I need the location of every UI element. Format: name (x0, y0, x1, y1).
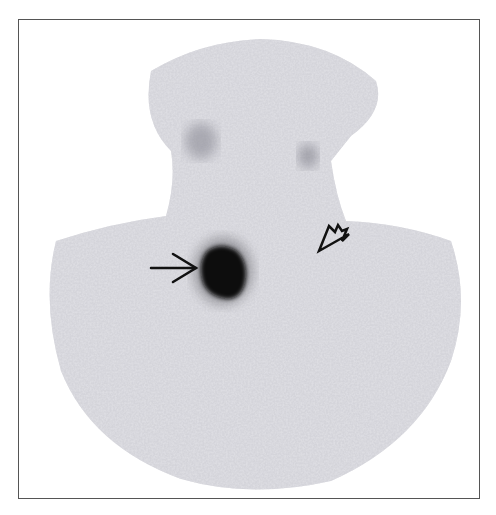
hot-spot (193, 237, 253, 305)
upper-uptake-left (185, 123, 217, 159)
upper-uptake-right (298, 144, 318, 168)
scan-frame (18, 19, 480, 499)
scintigraphy-image (19, 20, 480, 499)
